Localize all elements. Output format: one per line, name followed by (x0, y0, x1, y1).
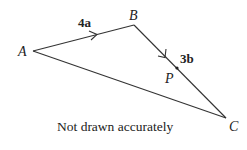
vector-label-4a: 4a (78, 15, 92, 30)
point-p-dot (175, 66, 178, 69)
label-b: B (129, 8, 138, 23)
vector-label-3b: 3b (180, 51, 194, 66)
edge-bc (134, 25, 226, 118)
label-c: C (229, 119, 239, 134)
not-drawn-accurately-note: Not drawn accurately (57, 119, 173, 134)
label-p: P (164, 71, 174, 86)
edge-ac (33, 51, 226, 118)
label-a: A (17, 44, 27, 59)
vector-triangle-diagram: A B C P 4a 3b Not drawn accurately (0, 0, 247, 150)
